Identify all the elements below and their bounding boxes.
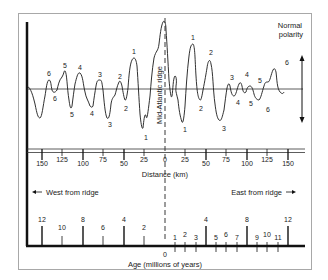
age-tick-label: 1 — [173, 234, 177, 241]
age-tick-label: 10 — [58, 224, 66, 231]
age-tick-label-center: 0 — [163, 251, 167, 258]
anomaly-label: 4 — [236, 99, 240, 106]
anomaly-label: 6 — [47, 70, 51, 77]
distance-tick-label: 150 — [36, 160, 48, 167]
anomaly-label: 3 — [98, 71, 102, 78]
anomaly-label: 5 — [249, 100, 253, 107]
age-tick-label: 12 — [284, 216, 292, 223]
magnetic-anomaly-diagram: Normal polarity Mid-Atlantic ridge 6 5 4… — [0, 0, 328, 280]
anomaly-label: 3 — [222, 125, 226, 132]
anomaly-label: 2 — [118, 73, 122, 80]
distance-tick-label: 125 — [261, 156, 273, 163]
anomaly-label: 1 — [183, 126, 187, 133]
distance-tick-label: 150 — [282, 160, 294, 167]
distance-tick-label: 50 — [202, 160, 210, 167]
anomaly-label: 4 — [90, 110, 94, 117]
anomaly-label: 5 — [70, 111, 74, 118]
age-tick-label: 6 — [101, 224, 105, 231]
anomaly-label: 2 — [209, 49, 213, 56]
distance-tick-label: 25 — [140, 156, 148, 163]
anomaly-label: 2 — [199, 105, 203, 112]
anomaly-label: 6 — [266, 106, 270, 113]
polarity-label-line2: polarity — [279, 30, 303, 39]
anomaly-label: 3 — [230, 74, 234, 81]
anomaly-label: 6 — [285, 59, 289, 66]
ridge-label: Mid-Atlantic ridge — [155, 66, 164, 124]
age-tick-label: 5 — [214, 234, 218, 241]
anomaly-label: 3 — [108, 121, 112, 128]
age-tick-label: 6 — [224, 231, 228, 238]
distance-axis-title: Distance (km) — [142, 170, 189, 179]
age-tick-label: 3 — [194, 234, 198, 241]
west-from-ridge-label: West from ridge — [46, 188, 99, 197]
anomaly-label: 6 — [53, 95, 57, 102]
polarity-label-line1: Normal — [278, 21, 303, 30]
distance-tick-label-center: 0 — [163, 156, 167, 163]
distance-tick-label: 25 — [181, 156, 189, 163]
age-tick-label: 7 — [235, 234, 239, 241]
age-tick-label: 9 — [255, 234, 259, 241]
anomaly-label: 1 — [132, 48, 136, 55]
age-tick-label: 11 — [274, 234, 281, 241]
age-axis-title: Age (millions of years) — [128, 260, 203, 269]
age-tick-label: 12 — [38, 216, 46, 223]
distance-tick-label: 50 — [120, 160, 128, 167]
anomaly-label: 1 — [144, 134, 148, 141]
distance-tick-label: 100 — [77, 160, 89, 167]
distance-tick-label: 75 — [99, 156, 107, 163]
age-tick-label: 4 — [122, 216, 126, 223]
east-arrow-icon — [286, 190, 296, 194]
anomaly-label: 4 — [78, 64, 82, 71]
east-from-ridge-label: East from ridge — [231, 188, 282, 197]
anomaly-label: 5 — [63, 62, 67, 69]
age-tick-label: 2 — [142, 224, 146, 231]
age-tick-label: 10 — [263, 231, 271, 238]
age-tick-label: 8 — [245, 216, 249, 223]
polarity-arrow-up-icon — [300, 55, 305, 61]
polarity-arrow-down-icon — [300, 117, 305, 123]
distance-tick-label: 75 — [222, 156, 230, 163]
west-arrow-icon — [32, 190, 42, 194]
anomaly-label: 2 — [124, 105, 128, 112]
distance-tick-label: 125 — [56, 156, 68, 163]
distance-tick-label: 100 — [241, 160, 253, 167]
anomaly-label: 5 — [258, 77, 262, 84]
age-tick-label: 8 — [81, 216, 85, 223]
anomaly-label: 4 — [245, 71, 249, 78]
age-tick-label: 2 — [183, 231, 187, 238]
anomaly-label: 1 — [191, 34, 195, 41]
age-tick-label: 4 — [204, 216, 208, 223]
